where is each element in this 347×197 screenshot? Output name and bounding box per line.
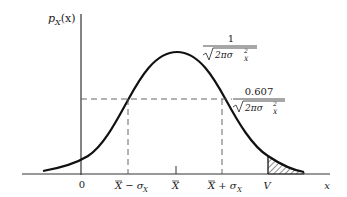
- sigma-height-label: 0.607 2πσ 2 X: [233, 86, 285, 115]
- tick-mean-plus-sigma: X + σ X: [207, 180, 243, 194]
- svg-text:1: 1: [228, 33, 234, 44]
- svg-text:2πσ: 2πσ: [214, 50, 234, 60]
- svg-text:X: X: [236, 186, 243, 194]
- svg-text:X: X: [243, 55, 249, 62]
- svg-text:pX(x): pX(x): [48, 12, 76, 27]
- svg-text:2: 2: [243, 47, 248, 54]
- normal-distribution-diagram: pX(x) 1 2πσ 2 X 0.607 2πσ 2 X 0 X − σ X …: [0, 0, 347, 197]
- svg-text:X: X: [171, 180, 180, 191]
- svg-text:X: X: [142, 186, 149, 194]
- svg-text:X − σ: X − σ: [114, 180, 145, 191]
- x-axis-label: x: [324, 180, 330, 191]
- bell-curve: [43, 52, 304, 172]
- svg-text:2πσ: 2πσ: [244, 103, 264, 113]
- tick-mean: X: [171, 180, 180, 191]
- tick-v: V: [263, 180, 272, 191]
- svg-text:0.607: 0.607: [245, 86, 274, 97]
- svg-text:X: X: [272, 108, 278, 115]
- peak-label: 1 2πσ 2 X: [203, 33, 257, 62]
- y-axis-label: p: [48, 12, 55, 25]
- svg-text:X + σ: X + σ: [207, 180, 238, 191]
- svg-text:2: 2: [272, 100, 277, 107]
- tick-mean-minus-sigma: X − σ X: [114, 180, 149, 194]
- tick-zero: 0: [79, 179, 85, 190]
